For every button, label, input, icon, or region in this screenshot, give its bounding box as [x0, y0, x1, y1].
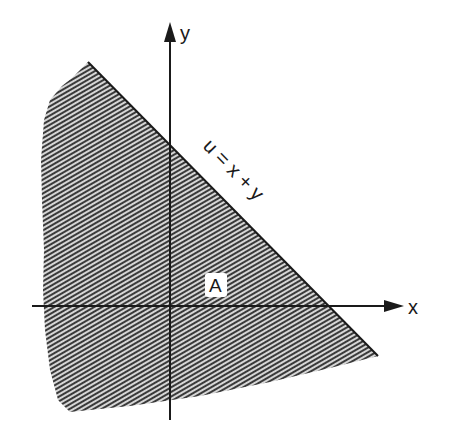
x-axis-label: x	[408, 296, 418, 318]
x-axis-arrow-icon	[384, 300, 404, 312]
y-axis-arrow-icon	[164, 22, 176, 42]
y-axis-label: y	[180, 22, 190, 44]
shaded-region-a	[41, 62, 378, 412]
region-diagram: y x u = x + y A	[0, 0, 454, 435]
region-label: A	[209, 275, 222, 296]
